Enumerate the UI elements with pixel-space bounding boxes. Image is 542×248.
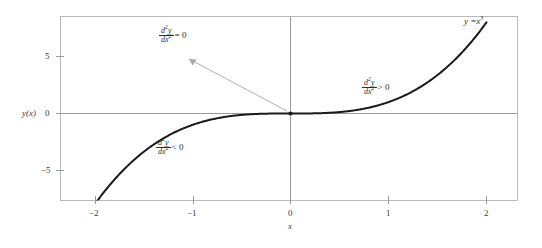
- x-tick-label-1: 1: [386, 209, 391, 218]
- fraction-d2y-dx2: d2y dx2: [362, 79, 377, 97]
- curve-equation-label: y =x3: [464, 17, 483, 26]
- x-tick-label-neg1: −1: [187, 209, 197, 218]
- annotation-second-derivative-positive: d2y dx2 > 0: [362, 79, 389, 97]
- relation-eq-zero: = 0: [174, 31, 187, 40]
- annotation-second-derivative-zero: d2y dx2 = 0: [159, 27, 186, 45]
- x-tick-label-0: 0: [288, 209, 293, 218]
- plot-frame: [61, 17, 518, 201]
- plot-canvas: [0, 0, 542, 248]
- y-tick-label-0: 0: [45, 109, 50, 118]
- x-tick-label-neg2: −2: [89, 209, 99, 218]
- fraction-d2y-dx2: d2y dx2: [159, 27, 174, 45]
- relation-gt-zero: > 0: [377, 83, 390, 92]
- annotation-second-derivative-negative: d2y dx2 < 0: [156, 139, 183, 157]
- inflection-point-marker: [288, 111, 292, 115]
- figure-container: y(x) 0 5 −5 −2 −1 0 1 2 x d2y dx2 = 0 d2…: [0, 0, 542, 248]
- fraction-d2y-dx2: d2y dx2: [156, 139, 171, 157]
- x-axis-label: x: [288, 222, 292, 231]
- inflection-arrow: [189, 59, 287, 111]
- x-tick-label-2: 2: [484, 209, 489, 218]
- relation-lt-zero: < 0: [171, 143, 184, 152]
- y-tick-label-neg5: −5: [41, 166, 51, 175]
- y-tick-label-5: 5: [45, 52, 50, 61]
- y-axis-label: y(x): [22, 109, 36, 118]
